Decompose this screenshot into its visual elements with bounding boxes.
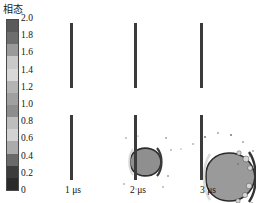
colorbar-band-5 — [7, 81, 18, 93]
colorbar-tick-10: 0 — [21, 185, 26, 195]
colorbar-band-1 — [7, 32, 18, 44]
colorbar-tick-5: 1.0 — [21, 99, 33, 109]
colorbar-band-2 — [7, 44, 18, 56]
colorbar-band-0 — [7, 20, 18, 32]
time-label-2: 2 μs — [130, 185, 146, 195]
colorbar-band-9 — [7, 129, 18, 141]
colorbar-band-7 — [7, 105, 18, 117]
barrier-upper-3 — [200, 23, 203, 88]
time-label-3: 3 μs — [200, 185, 216, 195]
colorbar-tick-3: 1.4 — [21, 65, 33, 75]
colorbar-band-8 — [7, 117, 18, 129]
colorbar-tick-4: 1.2 — [21, 82, 33, 92]
time-label-1: 1 μs — [65, 185, 81, 195]
colorbar-legend: 相态 2.01.81.61.41.21.00.80.60.40.20 — [0, 0, 48, 203]
colorbar-band-4 — [7, 69, 18, 81]
colorbar-tick-6: 0.8 — [21, 116, 33, 126]
colorbar-tick-0: 2.0 — [21, 13, 33, 23]
colorbar-tick-labels: 2.01.81.61.41.21.00.80.60.40.20 — [21, 13, 47, 197]
colorbar-band-10 — [7, 141, 18, 153]
colorbar-title: 相态 — [3, 1, 23, 16]
colorbar-band-3 — [7, 56, 18, 68]
colorbar-tick-1: 1.8 — [21, 30, 33, 40]
barrier-upper-2 — [134, 23, 137, 88]
colorbar-tick-8: 0.4 — [21, 151, 33, 161]
colorbar-tick-9: 0.2 — [21, 168, 33, 178]
barrier-upper-1 — [70, 23, 73, 88]
colorbar-tick-2: 1.6 — [21, 47, 33, 57]
colorbar-band-6 — [7, 93, 18, 105]
colorbar-band-13 — [7, 178, 18, 190]
simulation-plot: 1 μs — [48, 0, 256, 203]
colorbar-tick-7: 0.6 — [21, 133, 33, 143]
colorbar-gradient — [6, 19, 19, 191]
colorbar-band-11 — [7, 154, 18, 166]
colorbar-band-12 — [7, 166, 18, 178]
